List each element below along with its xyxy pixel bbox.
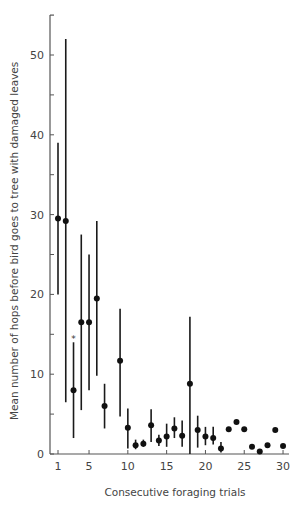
- data-point: [249, 444, 255, 450]
- data-point: [171, 425, 177, 431]
- data-point: [280, 443, 286, 449]
- data-point: [265, 442, 271, 448]
- data-point: [210, 435, 216, 441]
- data-point: [71, 387, 77, 393]
- data-point: [218, 445, 224, 451]
- data-point: [241, 426, 247, 432]
- data-point: [257, 449, 263, 455]
- data-point: [187, 381, 193, 387]
- y-tick-label: 50: [30, 49, 44, 62]
- data-point: [78, 319, 84, 325]
- annotations: *: [71, 334, 76, 344]
- data-point: [133, 442, 139, 448]
- y-tick-label: 20: [30, 288, 44, 301]
- data-point: [55, 216, 61, 222]
- axes: 01020304050151015202530: [30, 15, 290, 473]
- y-axis-label: Mean number of hops before bird goes to …: [8, 90, 22, 420]
- data-point: [125, 425, 131, 431]
- data-point: [156, 437, 162, 443]
- x-tick-label: 10: [121, 460, 135, 473]
- data-point: [117, 358, 123, 364]
- x-tick-label: 30: [276, 460, 290, 473]
- error-bars: [58, 39, 221, 454]
- x-tick-label: 5: [86, 460, 93, 473]
- x-tick-label: 1: [55, 460, 62, 473]
- data-point: [202, 433, 208, 439]
- data-point: [272, 427, 278, 433]
- data-point: [179, 433, 185, 439]
- asterisk-annotation: *: [71, 334, 76, 344]
- data-point: [148, 422, 154, 428]
- y-tick-label: 30: [30, 209, 44, 222]
- x-tick-label: 15: [160, 460, 174, 473]
- data-point: [233, 419, 239, 425]
- x-tick-label: 25: [237, 460, 251, 473]
- data-point: [63, 218, 69, 224]
- data-point: [195, 427, 201, 433]
- y-tick-label: 0: [37, 448, 44, 461]
- x-tick-label: 20: [198, 460, 212, 473]
- y-tick-label: 10: [30, 368, 44, 381]
- x-axis-label: Consecutive foraging trials: [60, 486, 290, 498]
- data-point: [102, 403, 108, 409]
- data-point: [164, 433, 170, 439]
- data-point: [226, 426, 232, 432]
- data-point: [94, 295, 100, 301]
- data-point: [140, 441, 146, 447]
- data-point: [86, 319, 92, 325]
- chart-area: 01020304050151015202530 *: [0, 0, 302, 513]
- y-tick-label: 40: [30, 129, 44, 142]
